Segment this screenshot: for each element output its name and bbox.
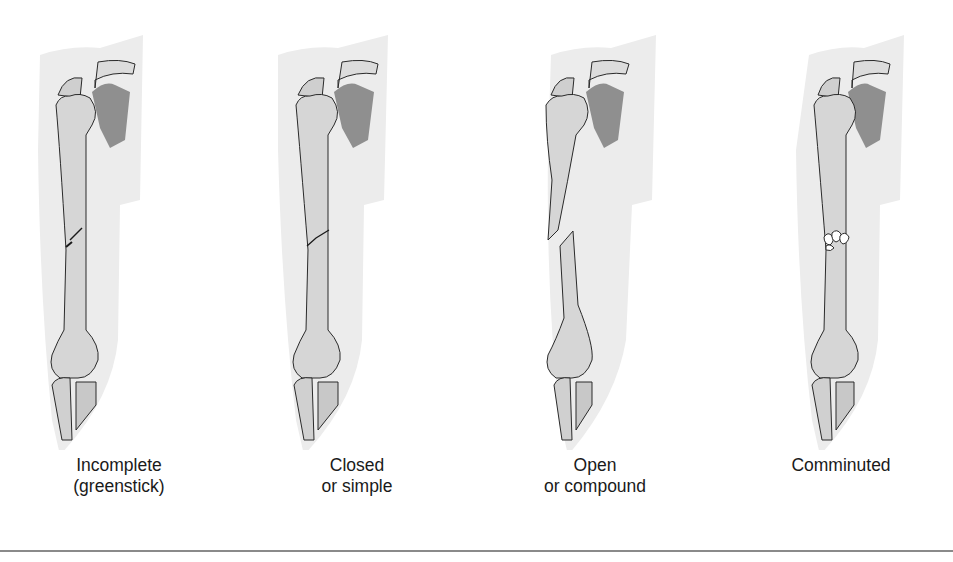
label-line-1: Incomplete [0,455,238,476]
label-line-1: Closed [238,455,476,476]
panel-open: Open or compound [476,0,714,545]
label-line-1: Open [476,455,714,476]
humerus-greenstick-illustration [0,0,238,450]
fracture-label-closed: Closed or simple [238,455,476,497]
bottom-divider [0,550,953,552]
label-line-2: (greenstick) [0,476,238,497]
humerus-comminuted-fracture-illustration [714,0,952,450]
label-line-1: Comminuted [722,455,953,476]
panel-incomplete: Incomplete (greenstick) [0,0,238,545]
label-line-2: or simple [238,476,476,497]
humerus-open-fracture-illustration [476,0,714,450]
fracture-label-incomplete: Incomplete (greenstick) [0,455,238,497]
fracture-label-open: Open or compound [476,455,714,497]
humerus-closed-fracture-illustration [238,0,476,450]
panel-comminuted: Comminuted [714,0,952,545]
panel-closed: Closed or simple [238,0,476,545]
fracture-label-comminuted: Comminuted [722,455,953,476]
label-line-2: or compound [476,476,714,497]
